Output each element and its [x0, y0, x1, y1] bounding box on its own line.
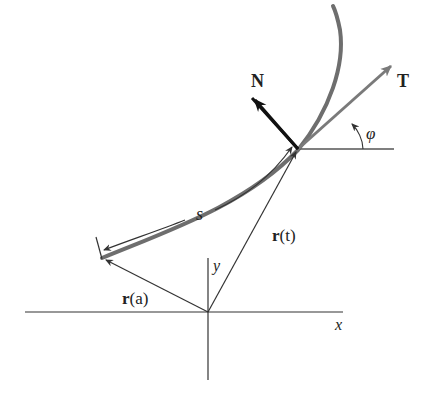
position-vector-a-label: r(a) — [122, 289, 148, 308]
x-axis-label: x — [334, 316, 342, 333]
angle-arc — [352, 124, 363, 149]
position-vector-t: r(t) — [208, 152, 296, 312]
arc-length-indicator: s — [96, 147, 292, 259]
arc-length-label: s — [196, 204, 203, 224]
y-axis-label: y — [211, 257, 221, 275]
diagram-canvas: x y s r(a) r(t) φ T N — [0, 0, 433, 400]
tangent-label: T — [397, 71, 409, 91]
arc-length-arrow-left — [104, 220, 185, 250]
angle-phi-label: φ — [366, 124, 375, 143]
axes: x y — [25, 257, 343, 380]
curve — [102, 6, 341, 258]
normal-label: N — [251, 71, 264, 91]
normal-vector: N — [251, 71, 298, 149]
position-vector-t-label: r(t) — [272, 226, 296, 245]
position-vector-a: r(a) — [106, 260, 208, 312]
arc-length-arrow-right — [215, 147, 292, 210]
tangent-vector: T — [298, 66, 409, 149]
